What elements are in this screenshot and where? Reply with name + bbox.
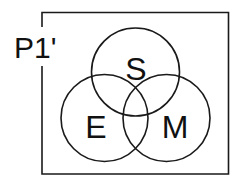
venn-diagram: P1' S E M <box>0 0 240 186</box>
set-m-label: M <box>162 109 189 145</box>
set-s-label: S <box>125 51 146 87</box>
universe-label: P1' <box>14 31 56 64</box>
set-e-label: E <box>85 109 106 145</box>
